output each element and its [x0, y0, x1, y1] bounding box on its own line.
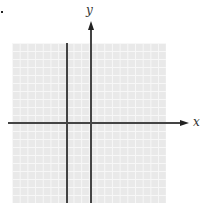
y-axis-label: y	[86, 3, 93, 17]
y-axis-arrow-icon	[88, 21, 94, 30]
x-axis-label: x	[193, 115, 200, 129]
problem-marker-dot	[1, 11, 3, 13]
x-axis-arrow-icon	[180, 120, 189, 126]
x-axis-line	[8, 122, 182, 124]
y-axis-line	[90, 27, 92, 203]
